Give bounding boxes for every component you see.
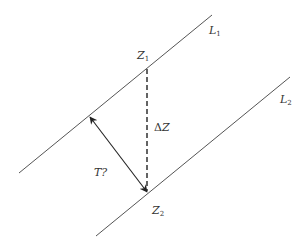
label-z1: Z1 xyxy=(137,50,149,63)
label-thickness-text: T? xyxy=(94,166,107,179)
label-delta-z-text: Z xyxy=(162,121,170,134)
line-l1 xyxy=(19,15,212,173)
label-l2: L2 xyxy=(280,94,292,107)
label-l1-sub: 1 xyxy=(216,30,220,38)
label-z1-text: Z xyxy=(137,49,145,62)
thickness-double-arrow xyxy=(90,117,147,192)
label-z2-sub: 2 xyxy=(160,210,164,218)
label-z2-text: Z xyxy=(152,204,160,217)
delta-symbol: Δ xyxy=(154,121,162,134)
label-delta-z: ΔZ xyxy=(154,122,170,133)
label-l2-sub: 2 xyxy=(287,99,291,107)
label-z2: Z2 xyxy=(152,205,164,218)
line-l2 xyxy=(96,77,290,236)
label-z1-sub: 1 xyxy=(145,55,149,63)
label-thickness: T? xyxy=(94,167,107,178)
diagram-canvas: L1 L2 Z1 Z2 ΔZ T? xyxy=(0,0,304,246)
label-l1: L1 xyxy=(209,25,221,38)
